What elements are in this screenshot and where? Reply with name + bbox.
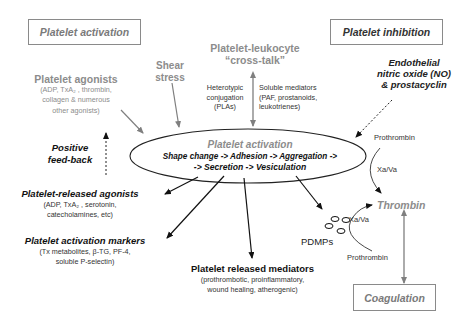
heterotypic-conjugation: Heterotypic conjugation (PLAs) — [200, 83, 250, 112]
xava-bottom: Xa/Va — [349, 215, 369, 224]
positive-feedback: Positive feed-back — [40, 142, 100, 166]
endothelial-line: & prostacyclin — [365, 79, 463, 90]
pdmps-label: PDMPs — [301, 236, 333, 247]
soluble-mediators: Soluble mediators (PAF, prostanoids, leu… — [259, 83, 339, 112]
platelet-activation-box: Platelet activation — [28, 19, 141, 45]
agonists-line: other agonists) — [20, 105, 132, 116]
platelet-activation-markers: Platelet activation markers (Tx metaboli… — [5, 235, 165, 266]
crosstalk-subtitle: “cross-talk” — [195, 54, 315, 66]
agonists-title: Platelet agonists — [20, 73, 132, 85]
coagulation-box-label: Coagulation — [364, 292, 425, 304]
mediators-title: Platelet released mediators — [170, 263, 335, 275]
mediators-line: wound healing, atherogenic) — [170, 285, 335, 295]
shear-line: Shear — [150, 60, 190, 72]
mediators-line: (prothrombotic, proinflammatory, — [170, 275, 335, 285]
heterotypic-line: Heterotypic — [200, 83, 250, 93]
feedback-line: Positive — [40, 142, 100, 154]
released-agonists-line: catecholamines, etc) — [5, 210, 155, 220]
prothrombin-top: Prothrombin — [374, 133, 415, 142]
xava-top: Xa/Va — [377, 165, 397, 174]
ellipse-content: Platelet activation Shape change -> Adhe… — [140, 139, 360, 173]
endothelial-line: Endothelial — [365, 57, 463, 68]
ellipse-line2: -> Secretion -> Vesiculation — [140, 162, 360, 173]
markers-line: soluble P-selectin) — [5, 257, 165, 267]
agonists-line: (ADP, TxA₂ , thrombin, — [20, 85, 132, 95]
shear-line: stress — [150, 72, 190, 84]
soluble-line: (PAF, prostanoids, — [259, 93, 339, 103]
feedback-line: feed-back — [40, 154, 100, 166]
platelet-agonists: Platelet agonists (ADP, TxA₂ , thrombin,… — [20, 73, 132, 116]
activation-box-label: Platelet activation — [40, 26, 129, 38]
ellipse-title: Platelet activation — [140, 139, 360, 151]
crosstalk-title: Platelet-leukocyte “cross-talk” — [195, 42, 315, 66]
heterotypic-line: (PLAs) — [200, 102, 250, 112]
released-agonists-title: Platelet-released agonists — [5, 188, 155, 200]
soluble-line: Soluble mediators — [259, 83, 339, 93]
markers-title: Platelet activation markers — [5, 235, 165, 247]
released-agonists-line: (ADP, TxA₂ , serotonin, — [5, 200, 155, 210]
inhibition-box-label: Platelet inhibition — [343, 26, 431, 38]
crosstalk-title-text: Platelet-leukocyte — [195, 42, 315, 54]
platelet-inhibition-box: Platelet inhibition — [330, 19, 443, 45]
prothrombin-bottom: Prothrombin — [347, 253, 388, 262]
endothelial-no-prostacyclin: Endothelial nitric oxide (NO) & prostacy… — [365, 57, 463, 90]
platelet-released-mediators: Platelet released mediators (prothrombot… — [170, 263, 335, 294]
coagulation-box: Coagulation — [353, 284, 436, 311]
thrombin-label: Thrombin — [377, 199, 425, 211]
ellipse-line1: Shape change -> Adhesion -> Aggregation … — [140, 151, 360, 162]
heterotypic-line: conjugation — [200, 93, 250, 103]
shear-stress: Shear stress — [150, 60, 190, 84]
endothelial-line: nitric oxide (NO) — [365, 68, 463, 79]
markers-line: (Tx metabolites, β-TG, PF-4, — [5, 247, 165, 257]
platelet-released-agonists: Platelet-released agonists (ADP, TxA₂ , … — [5, 188, 155, 219]
soluble-line: leukotrienes) — [259, 102, 339, 112]
agonists-line: collagen & numerous — [20, 95, 132, 105]
